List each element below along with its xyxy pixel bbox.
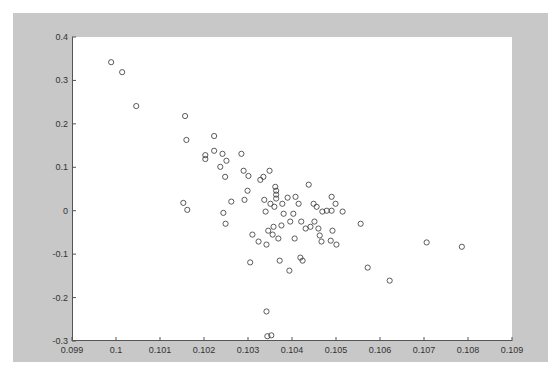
- data-point: [340, 209, 345, 214]
- data-point: [264, 309, 269, 314]
- y-tick-label: -0.1: [52, 249, 68, 259]
- x-tick-label: 0.106: [369, 345, 392, 355]
- data-point: [262, 197, 267, 202]
- data-point: [287, 268, 292, 273]
- data-point: [239, 151, 244, 156]
- data-point: [220, 151, 225, 156]
- data-point: [224, 158, 229, 163]
- y-tick-label: 0: [63, 206, 68, 216]
- data-point: [181, 200, 186, 205]
- data-point: [296, 201, 301, 206]
- data-point: [276, 236, 281, 241]
- data-point: [424, 240, 429, 245]
- data-point: [358, 221, 363, 226]
- data-point: [314, 204, 319, 209]
- data-point: [288, 219, 293, 224]
- y-tick-label: 0.3: [55, 75, 68, 85]
- data-point: [274, 196, 279, 201]
- data-point: [280, 201, 285, 206]
- data-point: [184, 137, 189, 142]
- x-tick-label: 0.108: [457, 345, 480, 355]
- x-tick-label: 0.109: [501, 345, 524, 355]
- x-tick-label: 0.099: [61, 345, 84, 355]
- data-point: [218, 164, 223, 169]
- x-tick-label: 0.1: [110, 345, 123, 355]
- data-point: [245, 188, 250, 193]
- data-point: [223, 174, 228, 179]
- data-point: [330, 228, 335, 233]
- data-point: [328, 238, 333, 243]
- x-tick-label: 0.105: [325, 345, 348, 355]
- data-point: [291, 211, 296, 216]
- data-point: [258, 177, 263, 182]
- x-tick-label: 0.102: [193, 345, 216, 355]
- data-point: [317, 233, 322, 238]
- data-point: [250, 232, 255, 237]
- x-tick-label: 0.101: [149, 345, 172, 355]
- data-point: [319, 239, 324, 244]
- data-point: [248, 260, 253, 265]
- x-tick-label: 0.103: [237, 345, 260, 355]
- data-point: [256, 239, 261, 244]
- data-point: [134, 103, 139, 108]
- x-tick-label: 0.104: [281, 345, 304, 355]
- x-tick-label: 0.107: [413, 345, 436, 355]
- data-point: [312, 219, 317, 224]
- data-point: [109, 60, 114, 65]
- data-point: [285, 195, 290, 200]
- y-tick-label: 0.4: [55, 32, 68, 42]
- data-point: [223, 221, 228, 226]
- data-point: [229, 199, 234, 204]
- data-point: [306, 182, 311, 187]
- data-point: [264, 242, 269, 247]
- data-point: [266, 228, 271, 233]
- scatter-chart: 0.0990.10.1010.1020.1030.1040.1050.1060.…: [0, 0, 555, 375]
- data-point: [203, 156, 208, 161]
- data-point: [459, 244, 464, 249]
- data-point: [267, 168, 272, 173]
- data-point: [263, 209, 268, 214]
- data-point: [246, 173, 251, 178]
- data-point: [299, 219, 304, 224]
- data-point: [277, 258, 282, 263]
- data-point: [334, 242, 339, 247]
- data-point: [212, 133, 217, 138]
- data-point: [387, 278, 392, 283]
- data-point: [212, 148, 217, 153]
- data-point: [271, 224, 276, 229]
- data-point: [281, 211, 286, 216]
- data-point: [279, 223, 284, 228]
- data-point: [221, 210, 226, 215]
- data-point: [308, 224, 313, 229]
- data-point: [293, 194, 298, 199]
- y-axis: -0.3-0.2-0.100.10.20.30.4: [52, 32, 76, 346]
- data-point: [242, 197, 247, 202]
- y-tick-label: 0.2: [55, 119, 68, 129]
- data-point: [185, 207, 190, 212]
- data-point: [365, 265, 370, 270]
- data-point: [261, 174, 266, 179]
- data-point: [316, 226, 321, 231]
- data-point: [182, 113, 187, 118]
- x-axis: 0.0990.10.1010.1020.1030.1040.1050.1060.…: [61, 337, 524, 355]
- y-tick-label: -0.3: [52, 336, 68, 346]
- data-point: [329, 194, 334, 199]
- data-points: [109, 60, 465, 339]
- data-point: [270, 232, 275, 237]
- y-tick-label: 0.1: [55, 162, 68, 172]
- data-point: [292, 236, 297, 241]
- y-tick-label: -0.2: [52, 293, 68, 303]
- data-point: [333, 201, 338, 206]
- data-point: [120, 70, 125, 75]
- data-point: [241, 168, 246, 173]
- data-point: [329, 208, 334, 213]
- data-point: [272, 204, 277, 209]
- data-point: [303, 226, 308, 231]
- data-point: [311, 201, 316, 206]
